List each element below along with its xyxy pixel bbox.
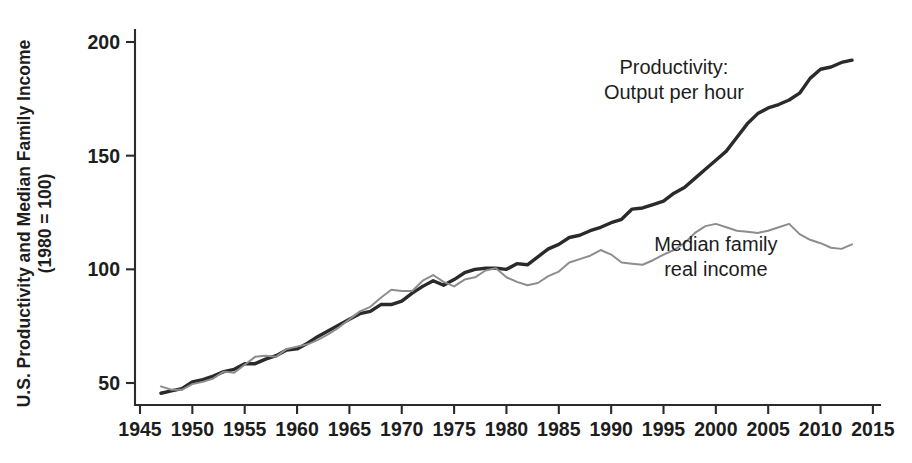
x-tick-label: 1985 (537, 418, 581, 440)
income-label-line2: real income (664, 258, 767, 280)
x-tick-label: 1955 (223, 418, 267, 440)
y-axis-title-line1: U.S. Productivity and Median Family Inco… (14, 39, 34, 407)
y-axis-title: U.S. Productivity and Median Family Inco… (14, 39, 55, 407)
income-label-line1: Median family (654, 233, 777, 255)
x-tick-label: 1980 (485, 418, 529, 440)
x-tick-label: 1950 (171, 418, 215, 440)
x-tick-label: 2005 (747, 418, 791, 440)
x-tick-label: 1970 (380, 418, 424, 440)
line-chart: U.S. Productivity and Median Family Inco… (0, 0, 912, 463)
chart-axes (135, 30, 880, 405)
x-axis-ticks: 1945195019551960196519701975198019851990… (118, 405, 894, 440)
x-tick-label: 1960 (275, 418, 319, 440)
y-tick-label: 100 (87, 258, 120, 280)
chart-series (161, 60, 852, 393)
x-tick-label: 1990 (589, 418, 633, 440)
y-tick-label: 150 (87, 145, 120, 167)
x-tick-label: 2010 (799, 418, 843, 440)
axis-lines (135, 30, 880, 405)
x-tick-label: 1995 (642, 418, 686, 440)
x-tick-label: 2000 (694, 418, 738, 440)
y-tick-label: 200 (87, 31, 120, 53)
x-tick-label: 1965 (328, 418, 372, 440)
series-line (161, 60, 852, 393)
y-axis-ticks: 50100150200 (87, 31, 135, 394)
x-tick-label: 1945 (118, 418, 162, 440)
chart-annotations: Productivity:Output per hourMedian famil… (604, 56, 778, 280)
y-tick-label: 50 (98, 372, 120, 394)
productivity-label-line1: Productivity: (620, 56, 729, 78)
productivity-label-line2: Output per hour (604, 81, 744, 103)
y-axis-title-line2: (1980 = 100) (35, 174, 55, 274)
x-tick-label: 1975 (432, 418, 476, 440)
x-tick-label: 2015 (851, 418, 895, 440)
chart-figure: U.S. Productivity and Median Family Inco… (0, 0, 912, 463)
